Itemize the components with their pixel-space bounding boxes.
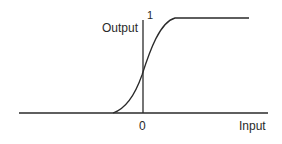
y-tick-1: 1 xyxy=(147,10,153,21)
x-tick-0: 0 xyxy=(139,120,146,132)
y-axis-label: Output xyxy=(102,22,138,34)
x-axis-label: Input xyxy=(239,120,266,132)
